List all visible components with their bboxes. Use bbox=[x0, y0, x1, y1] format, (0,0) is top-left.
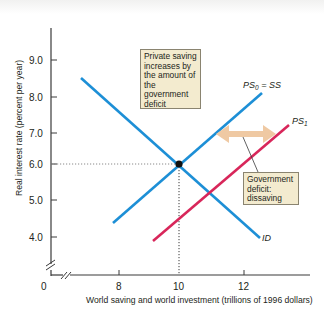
equilibrium-point bbox=[175, 160, 182, 167]
x-tick-10: 10 bbox=[173, 281, 185, 292]
x-axis-label: World saving and world investment (trill… bbox=[86, 295, 313, 305]
y-axis-label: Real interest rate (percent per year) bbox=[14, 60, 24, 196]
ps0-label: PS0 = SS bbox=[243, 80, 281, 91]
y-tick-9: 9.0 bbox=[29, 55, 43, 66]
y-ticks bbox=[51, 60, 57, 237]
y-tick-7: 7.0 bbox=[29, 128, 43, 139]
chart-canvas: 9.0 8.0 7.0 6.0 5.0 4.0 Real interest ra… bbox=[0, 0, 324, 318]
svg-text:PS1: PS1 bbox=[292, 116, 308, 127]
ps0-ss-curve bbox=[113, 93, 262, 223]
y-tick-5: 5.0 bbox=[29, 195, 43, 206]
x-ticks bbox=[119, 270, 244, 275]
ps1-label: PS1 bbox=[292, 116, 308, 127]
y-tick-4: 4.0 bbox=[29, 232, 43, 243]
svg-text:PS0 = SS: PS0 = SS bbox=[243, 80, 281, 91]
government-deficit-note: Government deficit: dissaving bbox=[243, 172, 299, 205]
y-tick-8: 8.0 bbox=[29, 92, 43, 103]
x-tick-0: 0 bbox=[41, 281, 47, 292]
x-tick-12: 12 bbox=[238, 281, 250, 292]
private-saving-note: Private saving increases by the amount o… bbox=[140, 49, 201, 109]
id-label: ID bbox=[262, 233, 272, 243]
shift-arrow-icon bbox=[216, 125, 276, 143]
x-tick-8: 8 bbox=[116, 281, 122, 292]
y-tick-6: 6.0 bbox=[29, 159, 43, 170]
